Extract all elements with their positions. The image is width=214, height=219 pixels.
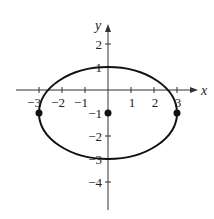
y-axis-label: y [93,18,102,33]
y-tick-labels: 2 1 −1 −2 −3 −4 [88,37,102,190]
point-center [105,110,112,117]
y-tick-label: −1 [88,106,102,121]
y-axis-arrow-icon [105,24,111,32]
y-tick-label: −4 [88,175,102,190]
x-tick-labels: −3 −2 −1 1 2 3 [27,95,181,110]
x-axis-arrow-icon [190,87,198,93]
x-tick-label: 2 [152,95,159,110]
x-tick-label: 1 [129,95,136,110]
x-tick-label: −1 [74,95,88,110]
ellipse-plot: x y −3 −2 −1 1 2 3 2 1 −1 −2 −3 −4 [0,0,214,219]
x-tick-label: −2 [51,95,65,110]
x-axis-label: x [200,83,208,98]
y-tick-label: −2 [88,129,102,144]
point-right-vertex [174,110,181,117]
y-tick-label: 2 [96,37,103,52]
point-left-vertex [36,110,43,117]
